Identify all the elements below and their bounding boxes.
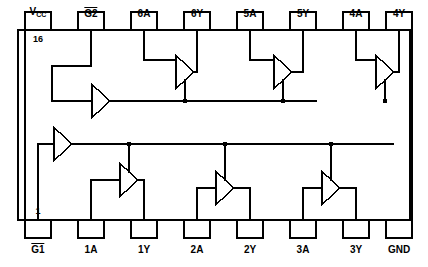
pin-number-16: 16 xyxy=(33,34,43,44)
pin-label-6y: 6Y xyxy=(191,8,203,19)
wire-ch4-y-out xyxy=(394,30,399,72)
pin-stub-bottom-2a xyxy=(184,220,210,238)
pin-label-2a: 2A xyxy=(191,244,204,255)
pin-label-1a: 1A xyxy=(85,244,98,255)
pin-stub-bottom-2y xyxy=(237,220,263,238)
logic-diagram-canvas: VCC G2 6A 6Y 5A 5Y 4A 4Y G1 1A 1Y 2A 2Y … xyxy=(0,0,428,267)
pin-stub-bottom-1a xyxy=(78,220,104,238)
junction-ch6-enable xyxy=(183,99,187,103)
wire-ch1-y-out xyxy=(138,180,144,220)
junction-ch1-enable xyxy=(127,142,131,146)
pin-number-1: 1 xyxy=(35,206,40,216)
pin-stub-bottom-gnd xyxy=(386,220,412,238)
wire-ch3-y-out xyxy=(340,188,356,220)
pin-label-1y: 1Y xyxy=(138,244,150,255)
pin-label-3y: 3Y xyxy=(350,244,362,255)
pin-stub-bottom-g1 xyxy=(25,220,51,238)
pin-label-5y: 5Y xyxy=(297,8,309,19)
pin-label-gnd: GND xyxy=(388,244,410,255)
pin-label-4a: 4A xyxy=(350,8,363,19)
wire-ch4-a-in xyxy=(356,30,376,72)
junction-ch4-enable xyxy=(383,99,387,103)
wire-ch2-a-in xyxy=(197,188,216,220)
wire-g2-to-buffer xyxy=(52,30,91,101)
pin-stub-bottom-1y xyxy=(131,220,157,238)
wire-ch6-y-out xyxy=(194,30,197,72)
logic-diagram-svg xyxy=(0,0,428,267)
enable-buffer-g1 xyxy=(54,127,72,160)
pin-label-6a: 6A xyxy=(138,8,151,19)
pin-stub-bottom-3y xyxy=(343,220,369,238)
pin-label-3a: 3A xyxy=(297,244,310,255)
pin-label-g1: G1 xyxy=(31,243,44,255)
pin-label-g2: G2 xyxy=(84,7,97,19)
junction-ch5-enable xyxy=(281,99,285,103)
junction-ch3-enable xyxy=(329,142,333,146)
wire-ch6-a-in xyxy=(144,30,176,72)
wire-ch5-a-in xyxy=(250,30,274,72)
enable-buffer-g2 xyxy=(92,84,110,117)
wire-ch2-y-out xyxy=(234,188,250,220)
pin-label-vcc: VCC xyxy=(30,6,47,18)
wire-ch1-a-in xyxy=(91,180,120,220)
package-outline xyxy=(18,30,410,220)
junction-ch2-enable xyxy=(223,142,227,146)
wire-ch3-a-in xyxy=(303,188,322,220)
pin-label-5a: 5A xyxy=(244,8,257,19)
wire-ch5-y-out xyxy=(292,30,303,72)
pin-label-2y: 2Y xyxy=(244,244,256,255)
pin-stub-bottom-3a xyxy=(290,220,316,238)
pin-label-4y: 4Y xyxy=(393,8,405,19)
